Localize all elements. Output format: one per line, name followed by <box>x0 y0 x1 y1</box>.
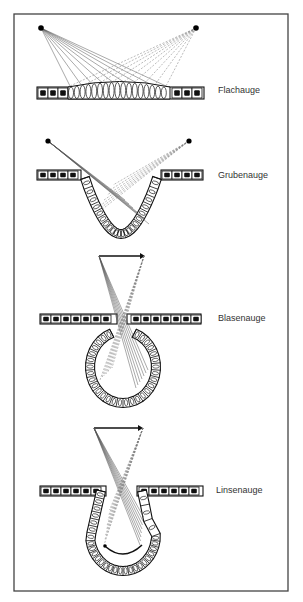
light-ray <box>41 28 142 86</box>
cell-nucleus <box>50 173 56 177</box>
light-ray <box>94 428 141 541</box>
light-ray-dashed <box>130 28 196 86</box>
cell-nucleus <box>43 317 49 321</box>
light-ray-dashed <box>142 28 196 86</box>
cell-nucleus <box>164 173 170 177</box>
panel-flachauge <box>37 25 204 99</box>
cell-nucleus <box>193 317 199 321</box>
cell-nucleus <box>181 489 187 493</box>
light-ray-dashed <box>106 28 196 86</box>
light-ray <box>41 28 82 86</box>
cell-nucleus <box>133 317 139 321</box>
cell-nucleus <box>191 489 197 493</box>
light-ray-dashed <box>118 28 196 86</box>
retinal-image-arrow <box>106 545 142 554</box>
cell-nucleus <box>171 489 177 493</box>
cell-nucleus <box>40 90 46 96</box>
light-ray-dashed <box>154 28 196 86</box>
cell-nucleus <box>43 489 49 493</box>
cell-nucleus <box>60 173 66 177</box>
light-ray-dashed <box>110 141 189 190</box>
light-ray-dashed <box>166 28 196 86</box>
cell-nucleus <box>70 173 76 177</box>
cell-nucleus <box>93 317 99 321</box>
cell-nucleus <box>73 489 79 493</box>
cell-nucleus <box>83 489 89 493</box>
cell-nucleus <box>53 489 59 493</box>
panel-grubenauge <box>37 138 203 238</box>
cell-nucleus <box>151 489 157 493</box>
arrowhead <box>140 253 145 259</box>
label-blasenauge: Blasenauge <box>218 313 266 323</box>
cell-nucleus <box>50 90 56 96</box>
light-source-left <box>38 25 44 31</box>
cell-nucleus <box>83 317 89 321</box>
light-ray <box>41 28 94 86</box>
eye-evolution-diagram: Flachauge Grubenauge Blasenauge Linsenau… <box>0 0 303 602</box>
cell-nucleus <box>73 317 79 321</box>
light-ray <box>94 428 141 537</box>
cell-nucleus <box>184 90 190 96</box>
label-linsenauge: Linsenauge <box>216 485 263 495</box>
cell-nucleus <box>153 317 159 321</box>
light-ray <box>41 28 154 86</box>
light-ray-dashed <box>82 28 196 86</box>
light-source-right <box>186 138 191 143</box>
cell-nucleus <box>53 317 59 321</box>
label-flachauge: Flachauge <box>218 85 260 95</box>
cell-nucleus <box>63 317 69 321</box>
light-ray-dashed <box>107 141 189 195</box>
cell-nucleus <box>184 173 190 177</box>
cell-nucleus <box>143 317 149 321</box>
cell-nucleus <box>60 90 66 96</box>
light-ray <box>41 28 118 86</box>
light-source-left <box>45 138 50 143</box>
cell-nucleus <box>103 317 109 321</box>
cell-nucleus <box>40 173 46 177</box>
light-source-right <box>193 25 199 31</box>
cell-nucleus <box>174 173 180 177</box>
light-ray <box>41 28 166 86</box>
panel-linsenauge <box>40 425 203 576</box>
cell-nucleus <box>173 317 179 321</box>
light-ray <box>41 28 106 86</box>
panel-blasenauge <box>40 253 201 408</box>
cell-nucleus <box>183 317 189 321</box>
arrowhead <box>138 425 143 431</box>
cell-nucleus <box>163 317 169 321</box>
light-ray-dashed <box>70 28 196 86</box>
label-grubenauge: Grubenauge <box>218 170 268 180</box>
cell-nucleus <box>63 489 69 493</box>
cell-nucleus <box>194 173 200 177</box>
light-ray <box>41 28 130 86</box>
cell-nucleus <box>174 90 180 96</box>
light-ray <box>94 428 142 529</box>
light-ray <box>41 28 70 86</box>
retinal-image-tail <box>103 544 107 548</box>
cell-nucleus <box>194 90 200 96</box>
cell-nucleus <box>161 489 167 493</box>
light-ray-dashed <box>94 28 196 86</box>
figure-frame <box>14 14 288 591</box>
light-ray <box>99 256 148 370</box>
light-ray <box>94 428 142 533</box>
